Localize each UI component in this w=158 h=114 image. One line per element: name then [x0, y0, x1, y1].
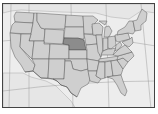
- state-kansas: [69, 50, 87, 59]
- state-utah: [32, 41, 50, 59]
- state-arizona: [32, 59, 49, 78]
- state-north-dakota: [65, 15, 84, 27]
- state-new-york: [117, 21, 135, 35]
- map-frame: [2, 3, 155, 108]
- state-washington: [14, 12, 34, 23]
- state-oregon: [10, 22, 33, 34]
- us-map: [3, 4, 155, 108]
- state-wisconsin: [92, 23, 103, 35]
- state-ohio: [108, 36, 116, 49]
- state-wyoming: [44, 29, 64, 44]
- state-new-mexico: [48, 59, 65, 79]
- state-south-dakota: [64, 27, 84, 39]
- state-iowa: [84, 34, 97, 45]
- state-colorado: [49, 44, 69, 59]
- state-montana: [37, 13, 66, 29]
- state-florida: [107, 75, 127, 96]
